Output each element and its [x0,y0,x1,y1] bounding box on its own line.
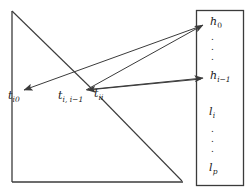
upper-dots: ... [211,32,214,62]
label-l-p: lp [209,162,217,173]
triangle-hypotenuse-upper [12,11,92,89]
lower-dots: ... [211,124,214,154]
label-t-i0: ti0 [8,90,20,101]
label-l-i: li [209,106,215,117]
label-t-ii: tii [94,88,103,99]
label-t-i-i-minus-1: ti, i−1 [58,90,83,101]
matrix-vector-diagram: ti0 ti, i−1 tii h0 ... hi−1 li ... lp [0,0,252,192]
arrow-hi-minus-1-to-tii [87,79,201,90]
arrow-group [24,25,203,90]
vector-box [197,11,244,186]
label-h-0: h0 [210,16,222,27]
label-h-i-minus-1: hi−1 [210,70,231,81]
triangle-hypotenuse-lower [100,97,182,181]
vector-box-outline [197,11,244,186]
